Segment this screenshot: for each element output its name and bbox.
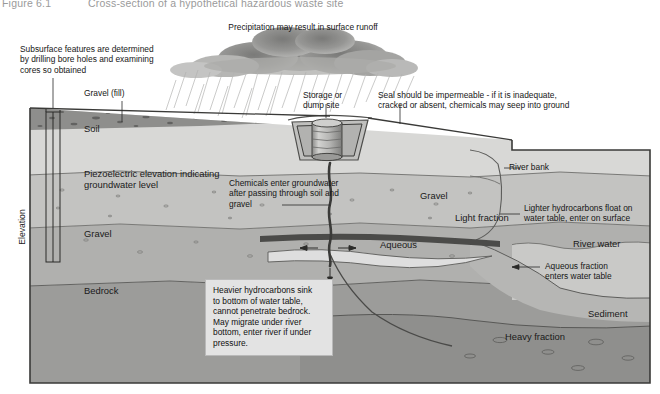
annotation-seal: Seal should be impermeable - if it is in…	[378, 90, 654, 111]
stratum-label-aqueous: Aqueous	[380, 239, 417, 250]
callout-heavier-hydrocarbons: Heavier hydrocarbons sink to bottom of w…	[205, 279, 333, 356]
stratum-label-heavy-fraction: Heavy fraction	[505, 331, 565, 342]
annotation-river-bank: River bank	[509, 162, 579, 172]
annotation-boreholes: Subsurface features are determined by dr…	[20, 44, 210, 75]
stratum-label-river-water: River water	[573, 238, 620, 249]
axis-label-elevation: Elevation	[17, 197, 27, 257]
annotation-storage-site: Storage or dump site	[303, 90, 365, 111]
stratum-label-piezo: Piezoelectric elevation indicating groun…	[84, 168, 284, 191]
storage-dump-site	[288, 115, 372, 160]
waste-drum-icon	[312, 119, 342, 161]
stratum-label-gravel-right: Gravel	[420, 190, 448, 201]
stratum-label-soil: Soil	[84, 123, 100, 134]
annotation-precipitation: Precipitation may result in surface runo…	[178, 22, 428, 32]
annotation-lighter-hydrocarbons: Lighter hydrocarbons float on water tabl…	[524, 203, 656, 224]
stratum-label-sediment: Sediment	[588, 308, 628, 319]
stratum-label-bedrock: Bedrock	[84, 285, 118, 296]
stratum-label-light-fraction: Light fraction	[455, 212, 509, 223]
figure-root: Figure 6.1 Cross-section of a hypothetic…	[0, 0, 660, 394]
stratum-label-gravel-left: Gravel	[84, 228, 112, 239]
annotation-gravel-fill: Gravel (fill)	[84, 88, 164, 98]
annotation-aqueous-fraction: Aqueous fraction enters water table	[545, 261, 657, 282]
